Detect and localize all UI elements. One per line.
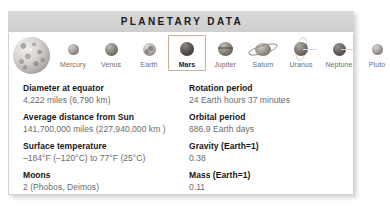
- planet-label-uranus: Uranus: [289, 60, 312, 69]
- planet-label-pluto: Pluto: [369, 60, 385, 69]
- planet-item-mercury[interactable]: Mercury: [54, 35, 92, 71]
- saturn-orb-wrap: [246, 38, 280, 60]
- fact-mass: Mass (Earth=1) 0.11: [189, 170, 353, 193]
- fact-average-distance: Average distance from Sun 141,700,000 mi…: [23, 112, 181, 135]
- planet-label-mars: Mars: [179, 60, 196, 69]
- orbit-connector-line: [303, 49, 317, 50]
- fact-value: 686.9 Earth days: [189, 124, 353, 135]
- planet-selector-strip: Mercury Venus Earth: [9, 33, 353, 79]
- fact-value: 24 Earth hours 37 minutes: [189, 95, 353, 106]
- fact-gravity: Gravity (Earth=1) 0.38: [189, 141, 353, 164]
- fact-label: Diameter at equator: [23, 83, 181, 94]
- fact-label: Rotation period: [189, 83, 353, 94]
- uranus-orb-wrap: [284, 38, 318, 60]
- mercury-orb-icon: [68, 44, 79, 55]
- facts-column-left: Diameter at equator 4,222 miles (6,790 k…: [9, 83, 181, 199]
- fact-rotation-period: Rotation period 24 Earth hours 37 minute…: [189, 83, 353, 106]
- hero-planet-cell: [13, 35, 50, 74]
- uranus-orb-icon: [294, 42, 308, 56]
- pluto-orb-wrap: [360, 38, 390, 60]
- planet-label-mercury: Mercury: [60, 60, 86, 69]
- fact-value: 2 (Phobos, Deimos): [23, 182, 181, 193]
- mercury-orb-wrap: [56, 38, 90, 60]
- planet-thumbnail-list: Mercury Venus Earth: [50, 35, 390, 71]
- mars-orb-icon: [180, 42, 194, 56]
- earth-orb-icon: [143, 43, 156, 56]
- fact-value: 4,222 miles (6,790 km): [23, 95, 181, 106]
- jupiter-orb-wrap: [208, 38, 242, 60]
- planet-label-venus: Venus: [101, 60, 121, 69]
- planet-label-jupiter: Jupiter: [214, 60, 236, 69]
- planet-item-mars[interactable]: Mars: [168, 35, 206, 71]
- mars-orb-wrap: [170, 38, 204, 60]
- planet-item-saturn[interactable]: Saturn: [244, 35, 282, 71]
- mars-large-sphere-icon: [13, 37, 50, 74]
- planet-item-uranus[interactable]: Uranus: [282, 35, 320, 71]
- fact-label: Surface temperature: [23, 141, 181, 152]
- planet-item-jupiter[interactable]: Jupiter: [206, 35, 244, 71]
- neptune-orb-icon: [333, 43, 346, 56]
- earth-orb-wrap: [132, 38, 166, 60]
- jupiter-orb-icon: [218, 42, 233, 56]
- card-body-panel: Mercury Venus Earth: [8, 33, 354, 195]
- planet-item-venus[interactable]: Venus: [92, 35, 130, 71]
- planet-item-earth[interactable]: Earth: [130, 35, 168, 71]
- page-title: PLANETARY DATA: [119, 16, 244, 27]
- fact-value: 0.38: [189, 153, 353, 164]
- fact-surface-temperature: Surface temperature –184°F (–120°C) to 7…: [23, 141, 181, 164]
- fact-value: 141,700,000 miles (227,940,000 km ): [23, 124, 181, 135]
- venus-orb-wrap: [94, 38, 128, 60]
- fact-moons: Moons 2 (Phobos, Deimos): [23, 170, 181, 193]
- planet-item-neptune[interactable]: Neptune: [320, 35, 358, 71]
- card-title-bar: PLANETARY DATA: [8, 11, 354, 33]
- fact-orbital-period: Orbital period 686.9 Earth days: [189, 112, 353, 135]
- neptune-orb-wrap: [322, 38, 356, 60]
- orbit-connector-line: [341, 49, 355, 50]
- facts-column-right: Rotation period 24 Earth hours 37 minute…: [181, 83, 353, 199]
- fact-label: Orbital period: [189, 112, 353, 123]
- fact-label: Gravity (Earth=1): [189, 141, 353, 152]
- planet-item-pluto[interactable]: Pluto: [358, 35, 390, 71]
- fact-value: 0.11: [189, 182, 353, 193]
- fact-label: Average distance from Sun: [23, 112, 181, 123]
- planetary-data-card: PLANETARY DATA Mercury Venus: [8, 11, 354, 195]
- fact-label: Moons: [23, 170, 181, 181]
- planet-label-neptune: Neptune: [325, 60, 352, 69]
- facts-area: Diameter at equator 4,222 miles (6,790 k…: [9, 79, 353, 199]
- fact-label: Mass (Earth=1): [189, 170, 353, 181]
- fact-diameter: Diameter at equator 4,222 miles (6,790 k…: [23, 83, 181, 106]
- planet-label-saturn: Saturn: [252, 60, 273, 69]
- planet-label-earth: Earth: [140, 60, 157, 69]
- pluto-orb-icon: [372, 44, 383, 55]
- venus-orb-icon: [105, 43, 118, 56]
- fact-value: –184°F (–120°C) to 77°F (25°C): [23, 153, 181, 164]
